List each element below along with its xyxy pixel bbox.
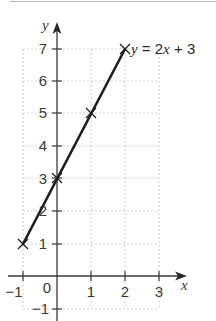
- axes: [8, 30, 180, 321]
- y-tick-label-4: 4: [39, 137, 47, 154]
- marker-x-icon: [18, 239, 28, 249]
- x-tick-label-3: 3: [155, 283, 163, 300]
- x-axis-label: x: [180, 277, 188, 293]
- equation-label: y = 2x + 3: [129, 40, 195, 57]
- x-tick-label-neg1: −1: [5, 283, 22, 300]
- linear-graph: −1 0 1 2 3 −1 1 2 3 4 5 6 7 x y y = 2x +…: [0, 0, 216, 321]
- y-axis-label: y: [40, 17, 49, 33]
- x-tick-label-1: 1: [87, 283, 95, 300]
- origin-label: 0: [43, 279, 51, 296]
- y-tick-label-neg1: −1: [32, 300, 49, 317]
- y-tick-label-1: 1: [39, 235, 47, 252]
- y-tick-label-5: 5: [39, 104, 47, 121]
- equation-rest: + 3: [170, 40, 195, 57]
- y-tick-label-6: 6: [39, 72, 47, 89]
- x-tick-label-2: 2: [121, 283, 129, 300]
- y-tick-label-7: 7: [39, 40, 47, 57]
- equation-lhs: y: [129, 41, 138, 57]
- equation-eq: = 2: [138, 40, 163, 57]
- y-tick-label-3: 3: [39, 170, 47, 187]
